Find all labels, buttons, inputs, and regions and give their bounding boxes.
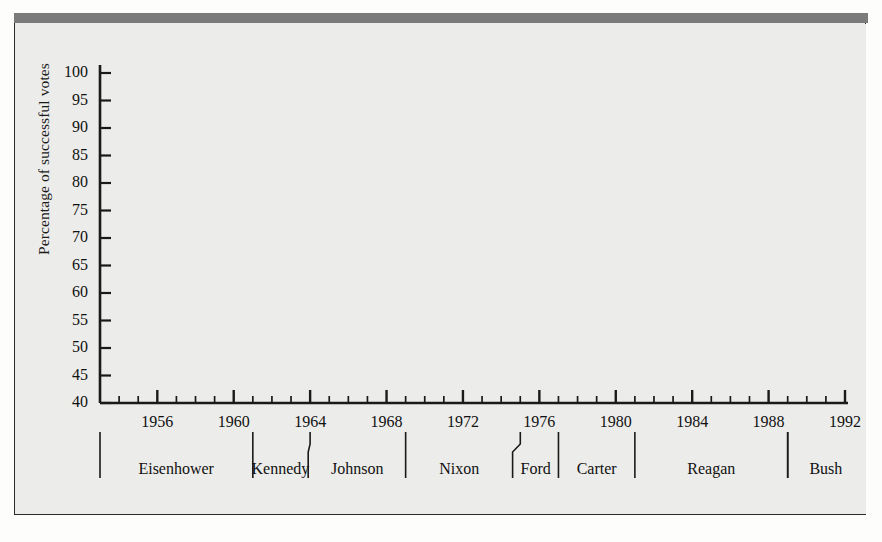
x-tick-1968: 1968 bbox=[357, 413, 417, 431]
y-tick-90: 90 bbox=[54, 118, 88, 136]
y-tick-60: 60 bbox=[54, 283, 88, 301]
x-tick-1956: 1956 bbox=[127, 413, 187, 431]
x-tick-1976: 1976 bbox=[509, 413, 569, 431]
x-tick-1988: 1988 bbox=[739, 413, 799, 431]
president-label-eisenhower: Eisenhower bbox=[138, 460, 214, 478]
x-tick-1972: 1972 bbox=[433, 413, 493, 431]
y-tick-70: 70 bbox=[54, 228, 88, 246]
x-tick-1984: 1984 bbox=[662, 413, 722, 431]
y-tick-85: 85 bbox=[54, 146, 88, 164]
y-tick-50: 50 bbox=[54, 338, 88, 356]
president-label-kennedy: Kennedy bbox=[252, 460, 310, 478]
y-tick-40: 40 bbox=[54, 393, 88, 411]
figure-page: 404550556065707580859095100 195619601964… bbox=[0, 0, 882, 542]
y-tick-45: 45 bbox=[54, 366, 88, 384]
president-label-bush: Bush bbox=[809, 460, 842, 478]
president-label-nixon: Nixon bbox=[439, 460, 479, 478]
x-tick-1980: 1980 bbox=[586, 413, 646, 431]
y-tick-75: 75 bbox=[54, 201, 88, 219]
y-tick-95: 95 bbox=[54, 91, 88, 109]
x-tick-1964: 1964 bbox=[280, 413, 340, 431]
y-tick-80: 80 bbox=[54, 173, 88, 191]
axes bbox=[15, 24, 866, 514]
president-label-reagan: Reagan bbox=[687, 460, 735, 478]
y-tick-100: 100 bbox=[54, 63, 88, 81]
x-tick-1992: 1992 bbox=[815, 413, 875, 431]
y-tick-65: 65 bbox=[54, 256, 88, 274]
president-label-ford: Ford bbox=[521, 460, 551, 478]
y-axis-title: Percentage of successful votes bbox=[35, 9, 53, 309]
x-tick-1960: 1960 bbox=[204, 413, 264, 431]
president-label-johnson: Johnson bbox=[331, 460, 383, 478]
y-tick-55: 55 bbox=[54, 311, 88, 329]
president-label-carter: Carter bbox=[577, 460, 617, 478]
